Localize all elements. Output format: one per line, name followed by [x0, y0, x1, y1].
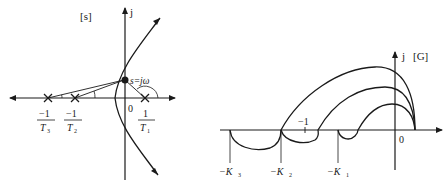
g-plane-diagram: j [G] 0 −1 −K 3 −K 2 −K 1 [219, 50, 442, 178]
svg-text:1: 1 [143, 108, 148, 119]
svg-text:−1: −1 [66, 108, 77, 119]
arrow-head-icon [151, 168, 158, 175]
locus-curve [115, 18, 160, 175]
point-marker-icon [122, 77, 129, 84]
diagram-canvas: [s] j 0 s=jω −1 T 3 −1 T 2 1 T 1 [0, 0, 446, 190]
svg-text:T: T [140, 122, 147, 133]
nyquist-curve-k3 [230, 67, 415, 149]
intercept-label-k3: −K 3 [219, 166, 241, 178]
pole-label-t2: −1 T 2 [64, 108, 82, 134]
svg-text:2: 2 [74, 128, 77, 134]
angle-arc [94, 91, 95, 98]
imag-axis-label: j [401, 50, 405, 62]
origin-label: 0 [128, 103, 133, 114]
intercept-label-k2: −K 2 [270, 166, 292, 178]
arrow-head-icon [153, 18, 160, 25]
svg-text:−K: −K [327, 166, 342, 177]
plane-label: [s] [80, 10, 92, 22]
intercept-label-k1: −K 1 [327, 166, 349, 178]
svg-text:T: T [67, 122, 74, 133]
svg-text:−K: −K [270, 166, 285, 177]
svg-text:1: 1 [147, 128, 150, 134]
pole-label-t1: 1 T 1 [138, 108, 155, 134]
pole-label-t3: −1 T 3 [37, 108, 55, 134]
s-plane-diagram: [s] j 0 s=jω −1 T 3 −1 T 2 1 T 1 [10, 6, 175, 180]
svg-text:3: 3 [47, 128, 50, 134]
imag-axis-label: j [129, 6, 133, 18]
svg-text:−1: −1 [39, 108, 50, 119]
origin-label: 0 [399, 134, 404, 145]
vector-line [48, 80, 124, 98]
plane-label: [G] [413, 50, 428, 62]
point-label: s=jω [130, 76, 150, 86]
svg-text:−K: −K [219, 166, 234, 177]
svg-text:T: T [40, 122, 47, 133]
critical-point-label: −1 [298, 116, 309, 127]
svg-text:3: 3 [238, 172, 241, 178]
svg-text:2: 2 [289, 172, 292, 178]
svg-text:1: 1 [346, 172, 349, 178]
